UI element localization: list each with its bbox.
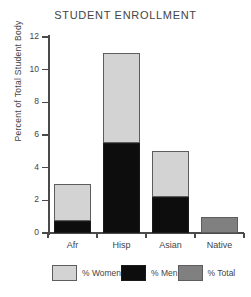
bar-afr — [54, 37, 91, 233]
x-axis-label-hisp: Hisp — [94, 240, 150, 250]
y-axis-title: Percent of Total Student Body — [13, 1, 23, 161]
x-axis-tick — [96, 233, 98, 238]
x-axis-tick — [243, 233, 245, 238]
x-axis-label-asian: Asian — [143, 240, 199, 250]
bar-segment-women — [54, 184, 91, 221]
chart-container: STUDENT ENROLLMENT Percent of Total Stud… — [0, 0, 251, 297]
bar-segment-men — [152, 197, 189, 233]
y-axis-tick-label: 4 — [17, 163, 39, 172]
bar-segment-men — [54, 221, 91, 233]
legend-item-women: % Women — [52, 265, 121, 281]
bar-segment-women — [103, 53, 140, 143]
bar-native — [201, 37, 238, 233]
legend-label: % Men — [151, 268, 177, 278]
y-axis-tick-label: 2 — [17, 195, 39, 204]
legend-item-men: % Men — [121, 265, 177, 281]
legend-swatch — [121, 265, 146, 281]
bar-asian — [152, 37, 189, 233]
bar-segment-men — [103, 143, 140, 233]
legend-swatch — [178, 265, 203, 281]
chart-title: STUDENT ENROLLMENT — [0, 9, 251, 21]
legend-swatch — [52, 265, 77, 281]
bar-segment-total — [201, 217, 238, 233]
x-axis-tick — [145, 233, 147, 238]
x-axis-label-native: Native — [192, 240, 248, 250]
bar-segment-women — [152, 151, 189, 197]
x-axis-label-afr: Afr — [45, 240, 101, 250]
plot-area — [48, 37, 244, 233]
bar-hisp — [103, 37, 140, 233]
y-axis-tick-label: 0 — [17, 228, 39, 237]
legend-item-total: % Total — [178, 265, 236, 281]
chart-legend: % Women% Men% Total — [52, 263, 232, 283]
legend-label: % Women — [82, 268, 121, 278]
legend-label: % Total — [208, 268, 236, 278]
x-axis-tick — [194, 233, 196, 238]
